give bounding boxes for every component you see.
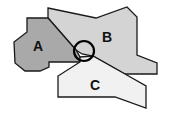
region-a-label: A: [33, 38, 43, 54]
region-diagram: A B C: [0, 0, 169, 115]
diagram-svg: A B C: [0, 0, 169, 115]
region-b-label: B: [102, 29, 112, 45]
region-c-label: C: [90, 77, 100, 93]
